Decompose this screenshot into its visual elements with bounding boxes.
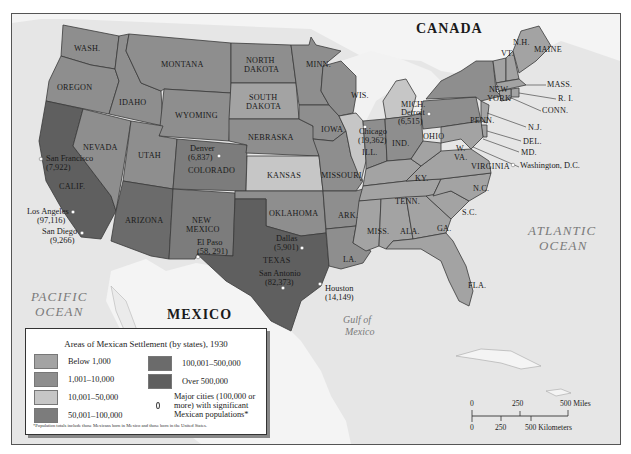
state-ri[interactable] <box>511 88 519 97</box>
label-nj: N.J. <box>528 123 542 132</box>
city-denver: Denver <box>190 144 215 153</box>
label-new-mexico-2: MEXICO <box>186 225 220 234</box>
label-ri: R. I. <box>558 94 573 103</box>
label-nc: N.C. <box>473 184 489 193</box>
jamaica <box>546 389 571 396</box>
label-ohio: OHIO <box>423 132 444 141</box>
legend-item-10001-50000: 10,001–50,000 <box>34 390 118 405</box>
city-san-antonio-pop: (82,373) <box>265 278 294 287</box>
city-detroit: Detroit <box>401 108 425 117</box>
label-oregon: OREGON <box>57 83 92 92</box>
label-idaho: IDAHO <box>119 98 146 107</box>
legend-label: 100,001–500,000 <box>182 359 241 368</box>
city-san-francisco-pop: (7,922) <box>46 163 71 172</box>
legend-swatch <box>34 372 58 387</box>
legend-item-50001-100000: 50,001–100,000 <box>34 408 122 423</box>
label-minn: MINN. <box>306 60 331 69</box>
label-atlantic: ATLANTIC <box>527 223 596 238</box>
label-maine: MAINE <box>534 45 562 54</box>
label-sc: S.C. <box>462 208 477 217</box>
label-wyoming: WYOMING <box>175 111 218 120</box>
label-del: DEL. <box>523 137 542 146</box>
label-gulf-mexico: Mexico <box>344 326 374 337</box>
label-texas: TEXAS <box>263 256 291 265</box>
label-conn: CONN. <box>542 106 568 115</box>
label-ga: GA. <box>437 224 451 233</box>
label-nh: N.H. <box>513 38 530 47</box>
label-mexico: MEXICO <box>167 307 232 322</box>
label-nevada: NEVADA <box>83 143 118 152</box>
legend-label: Over 500,000 <box>182 377 228 386</box>
legend-label: Major cities (100,000 or more) with sign… <box>174 392 263 419</box>
city-dot-houston[interactable] <box>318 282 322 286</box>
label-new-york-1: NEW <box>489 85 508 94</box>
city-denver-pop: (6,837) <box>188 153 213 162</box>
label-oklahoma: OKLAHOMA <box>269 209 318 218</box>
label-ala: ALA. <box>400 227 420 236</box>
legend-item-below-1000: Below 1,000 <box>34 354 111 369</box>
legend-footnote: *Population totals include those Mexican… <box>33 423 262 428</box>
label-md: MD. <box>521 148 537 157</box>
city-dot-los-angeles[interactable] <box>71 210 75 214</box>
legend-label: Below 1,000 <box>68 357 111 366</box>
label-atlantic-ocean: OCEAN <box>539 238 588 253</box>
label-missouri: MISSOURI <box>321 171 362 180</box>
label-fla: FLA. <box>468 281 486 290</box>
city-los-angeles-pop: (97,116) <box>37 216 66 225</box>
label-ill: ILL. <box>362 148 378 157</box>
city-el-paso: El Paso <box>197 238 222 247</box>
label-ind: IND. <box>392 139 409 148</box>
label-la: LA. <box>343 255 357 264</box>
label-nebraska: NEBRASKA <box>248 133 294 142</box>
city-dallas-pop: (5,901) <box>274 243 299 252</box>
city-dot-washington-dc[interactable] <box>511 163 515 167</box>
label-new-york-2: YORK <box>487 94 511 103</box>
label-pacific: PACIFIC <box>30 289 88 304</box>
city-detroit-pop: (6,515) <box>398 117 423 126</box>
map-frame: CANADA MEXICO PACIFIC OCEAN ATLANTIC OCE… <box>11 13 621 445</box>
legend-item-over-500000: Over 500,000 <box>148 374 228 389</box>
city-dot-dallas[interactable] <box>300 246 304 250</box>
city-san-diego: San Diego <box>42 227 77 236</box>
label-colorado: COLORADO <box>188 166 235 175</box>
label-utah: UTAH <box>138 151 161 160</box>
city-el-paso-pop: (58, 291) <box>197 247 228 256</box>
city-houston: Houston <box>325 284 354 293</box>
city-dot-san-francisco[interactable] <box>39 157 43 161</box>
label-w-va-1: W. <box>456 144 465 153</box>
legend-item-100001-500000: 100,001–500,000 <box>148 356 241 371</box>
city-dot-san-diego[interactable] <box>80 231 84 235</box>
legend-swatch <box>34 354 58 369</box>
scale-miles-500: 500 Miles <box>560 399 591 408</box>
cuba <box>456 349 541 369</box>
legend-label: 50,001–100,000 <box>68 411 122 420</box>
label-tenn: TENN. <box>395 197 420 206</box>
label-wash: WASH. <box>74 44 100 53</box>
label-gulf: Gulf of <box>343 314 372 325</box>
legend-swatch <box>148 374 172 389</box>
label-north-dakota-1: NORTH <box>246 56 275 65</box>
city-san-francisco: San Francisco <box>46 154 93 163</box>
label-new-mexico-1: NEW <box>192 216 211 225</box>
city-dallas: Dallas <box>276 234 297 243</box>
legend-swatch <box>148 356 172 371</box>
city-dot-detroit[interactable] <box>427 112 431 116</box>
label-ky: KY. <box>415 174 428 183</box>
label-ark: ARK. <box>338 211 358 220</box>
city-washington-dc: Washington, D.C. <box>520 161 580 170</box>
city-chicago-pop: (19,362) <box>358 136 387 145</box>
city-dot-denver[interactable] <box>217 154 221 158</box>
city-chicago: Chicago <box>359 127 387 136</box>
label-w-va-2: VA. <box>454 153 467 162</box>
label-vt: VT. <box>501 49 514 58</box>
legend-swatch <box>34 390 58 405</box>
label-mass: MASS. <box>547 80 572 89</box>
scale-km-0: 0 <box>470 423 474 432</box>
state-fla[interactable] <box>386 233 473 306</box>
label-south-dakota-1: SOUTH <box>249 93 277 102</box>
legend-swatch <box>34 408 58 423</box>
label-kansas: KANSAS <box>267 171 301 180</box>
scale-miles-250: 250 <box>512 399 523 408</box>
legend-item-major-cities: Major cities (100,000 or more) with sign… <box>148 392 263 419</box>
label-montana: MONTANA <box>161 60 204 69</box>
